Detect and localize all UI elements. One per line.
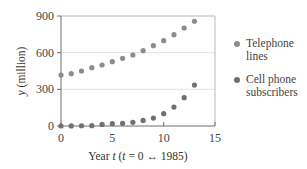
legend-marker-telephone-icon xyxy=(234,41,240,47)
data-point xyxy=(120,121,125,126)
x-tick-label: 0 xyxy=(58,131,64,145)
data-point xyxy=(110,59,115,64)
x-axis-label: Year t (t = 0 ↔ 1985) xyxy=(88,150,187,163)
data-point xyxy=(69,71,74,76)
data-point xyxy=(192,82,197,87)
data-point xyxy=(151,115,156,120)
data-point xyxy=(110,121,115,126)
data-point xyxy=(130,52,135,57)
data-point xyxy=(89,123,94,128)
data-points xyxy=(58,19,197,129)
y-tick-label: 0 xyxy=(48,119,54,133)
data-point xyxy=(130,120,135,125)
y-axis-label: y (million) xyxy=(15,46,28,96)
legend-label-telephone-lines: Telephone lines xyxy=(246,37,294,63)
data-point xyxy=(120,56,125,61)
data-point xyxy=(58,72,63,77)
data-point xyxy=(79,123,84,128)
y-axis-ticks: 0300600900 xyxy=(36,9,61,133)
y-axis-label-text: (million) xyxy=(15,46,28,90)
data-point xyxy=(151,43,156,48)
series-telephone-lines xyxy=(58,19,197,78)
data-point xyxy=(89,65,94,70)
x-tick-label: 15 xyxy=(209,131,221,145)
x-tick-label: 10 xyxy=(158,131,170,145)
data-point xyxy=(69,123,74,128)
data-point xyxy=(182,95,187,100)
data-point xyxy=(58,123,63,128)
data-point xyxy=(79,68,84,73)
x-axis-label-rest: = 0 ↔ 1985) xyxy=(126,150,188,163)
data-point xyxy=(99,122,104,127)
data-point xyxy=(171,104,176,109)
data-point xyxy=(161,111,166,116)
data-point xyxy=(141,118,146,123)
data-point xyxy=(182,25,187,30)
legend-label-cell-phone-subscribers: Cell phone subscribers xyxy=(246,73,298,99)
data-point xyxy=(141,48,146,53)
x-tick-label: 5 xyxy=(109,131,115,145)
data-point xyxy=(161,38,166,43)
data-point xyxy=(192,19,197,24)
legend-marker-cell-phone-icon xyxy=(234,77,240,83)
x-axis-label-word: Year xyxy=(88,150,112,162)
y-tick-label: 600 xyxy=(36,46,54,60)
data-point xyxy=(171,32,176,37)
y-tick-label: 300 xyxy=(36,82,54,96)
y-tick-label: 900 xyxy=(36,9,54,23)
data-point xyxy=(99,62,104,67)
